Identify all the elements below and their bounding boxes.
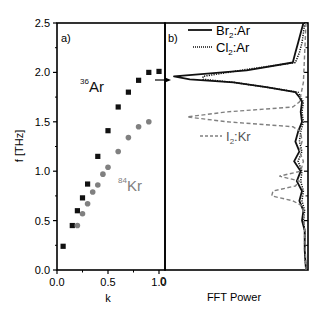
- x-axis-ticks: 0.00.51.0: [49, 270, 166, 288]
- ar-data-point: [136, 78, 141, 83]
- ar-data-point: [75, 208, 80, 213]
- ar-data-point: [105, 128, 110, 133]
- spectrum-line: [174, 23, 306, 270]
- ar-data-point: [146, 70, 151, 75]
- kr-data-point: [95, 182, 101, 188]
- kr-data-point: [115, 149, 121, 155]
- y-tick-label: 2.5: [35, 17, 50, 29]
- kr-data-point: [126, 135, 132, 141]
- kr-data-point: [85, 201, 91, 207]
- y-axis-ticks: 0.00.51.01.52.02.5: [35, 17, 57, 276]
- x-axis-label-k: k: [105, 292, 111, 304]
- x-tick-label: 0.5: [100, 276, 115, 288]
- ar-data-point: [80, 195, 85, 200]
- ar-data-point: [126, 90, 131, 95]
- kr-data-point: [136, 124, 142, 130]
- x-axis-label-fft-power: FFT Power: [207, 291, 262, 303]
- data-points: [61, 69, 162, 249]
- spectrum-line: [203, 23, 306, 270]
- spectrum-line: [187, 23, 306, 270]
- legend-item-i2-kr: I2:Kr: [200, 129, 251, 146]
- y-axis-label: f [THz]: [13, 130, 25, 162]
- ar-data-point: [70, 223, 75, 228]
- x-axis-zero-tick: 0: [160, 275, 166, 287]
- spectra-lines: [174, 23, 306, 270]
- kr-data-point: [75, 223, 81, 229]
- legend-item-br2-ar: Br2:Ar: [188, 23, 251, 40]
- y-tick-label: 0.0: [35, 264, 50, 276]
- kr-data-point: [146, 119, 152, 125]
- svg-text:Cl2:Ar: Cl2:Ar: [216, 40, 250, 57]
- arrow-marker-icon: [155, 78, 171, 83]
- kr-data-point: [90, 189, 96, 195]
- panel-a-label: a): [61, 32, 71, 44]
- panel-a: 0.00.51.01.52.02.5 0.00.51.0 a) 36 Ar 84…: [13, 17, 167, 304]
- legend: Br2:Ar Cl2:Ar I2:Kr: [188, 23, 251, 146]
- ar-annotation: Ar: [89, 78, 104, 95]
- kr-data-point: [80, 211, 86, 217]
- y-tick-label: 1.0: [35, 165, 50, 177]
- legend-item-cl2-ar: Cl2:Ar: [193, 40, 250, 57]
- ar-data-point: [61, 244, 66, 249]
- panel-b: b) 0 FFT Power Br2:Ar Cl2:Ar I2:Kr: [155, 23, 308, 303]
- figure: 0.00.51.01.52.02.5 0.00.51.0 a) 36 Ar 84…: [0, 0, 327, 320]
- kr-data-point: [100, 171, 106, 177]
- kr-annotation: Kr: [127, 177, 142, 194]
- svg-text:Br2:Ar: Br2:Ar: [216, 23, 251, 40]
- ar-data-point: [156, 69, 161, 74]
- y-tick-label: 2.0: [35, 66, 50, 78]
- panel-a-frame: [57, 23, 165, 270]
- panel-b-label: b): [168, 32, 178, 44]
- panel-b-frame: [165, 23, 308, 270]
- svg-text:I2:Kr: I2:Kr: [226, 129, 251, 146]
- ar-data-point: [95, 154, 100, 159]
- y-tick-label: 1.5: [35, 116, 50, 128]
- x-tick-label: 0.0: [49, 276, 64, 288]
- ar-data-point: [85, 181, 90, 186]
- y-tick-label: 0.5: [35, 215, 50, 227]
- ar-data-point: [116, 104, 121, 109]
- kr-data-point: [105, 164, 111, 170]
